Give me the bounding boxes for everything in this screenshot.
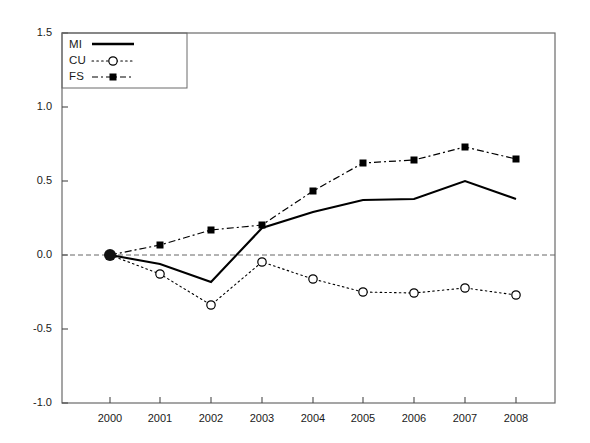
legend-label-cu: CU — [69, 54, 86, 66]
y-tick-label: 0.0 — [16, 248, 52, 260]
series-markers-cu — [106, 251, 520, 309]
y-tick-label: 0.5 — [16, 174, 52, 186]
legend-label-mi: MI — [69, 38, 82, 50]
x-tick-label: 2000 — [85, 412, 135, 424]
x-tick-label: 2006 — [389, 412, 439, 424]
legend-label-fs: FS — [69, 70, 84, 82]
line-chart: 1.5 1.0 0.5 0.0 -0.5 -1.0 2000 2001 2002… — [0, 0, 590, 443]
series-line-mi — [110, 181, 516, 282]
y-tick-label: 1.5 — [16, 26, 52, 38]
x-tick-label: 2004 — [288, 412, 338, 424]
x-tick-label: 2001 — [135, 412, 185, 424]
x-tick-label: 2003 — [237, 412, 287, 424]
x-tick-label: 2005 — [338, 412, 388, 424]
chart-canvas — [0, 0, 590, 443]
legend-sample-fs-square-icon — [110, 74, 117, 81]
x-tick-label: 2002 — [186, 412, 236, 424]
x-tick-label: 2007 — [440, 412, 490, 424]
origin-marker-2000 — [104, 249, 116, 261]
x-tick-label: 2008 — [491, 412, 541, 424]
x-axis-ticks — [110, 397, 516, 403]
y-tick-label: -0.5 — [16, 322, 52, 334]
series-markers-fs — [107, 144, 520, 259]
y-tick-label: 1.0 — [16, 100, 52, 112]
y-tick-label: -1.0 — [16, 396, 52, 408]
series-line-fs — [110, 147, 516, 255]
legend-sample-cu-circle-icon — [109, 57, 117, 65]
